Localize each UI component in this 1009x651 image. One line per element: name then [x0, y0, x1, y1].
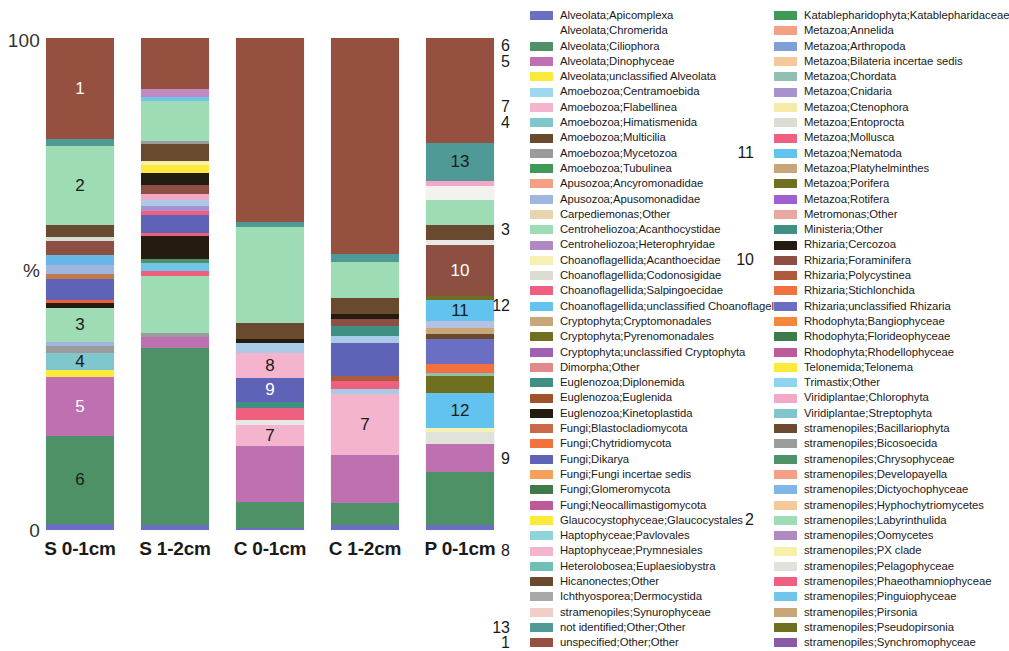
legend-item[interactable]: Metazoa;Platyhelminthes [756, 161, 995, 176]
stacked-bar-group: 123456S 0-1cmS 1-2cm897C 0-1cm7C 1-2cm13… [46, 38, 512, 530]
legend-item[interactable]: Euglenozoa;Diplonemida [512, 375, 762, 390]
legend-item-label: Metazoa;Rotifera [804, 194, 889, 205]
bar-category-label: C 1-2cm [319, 538, 411, 560]
legend-item[interactable]: Katablepharidophyta;Katablepharidaceae [756, 8, 995, 23]
legend-item[interactable]: 10Rhizaria;Foraminifera [756, 253, 995, 268]
legend-item[interactable]: 2stramenopiles;Labyrinthulida [756, 513, 995, 528]
legend-item-label: Rhizaria;Foraminifera [804, 255, 911, 266]
legend-item[interactable]: Amoebozoa;Mycetozoa [512, 146, 762, 161]
legend-item[interactable]: Metazoa;Porifera [756, 176, 995, 191]
legend-item[interactable]: stramenopiles;Bicosoecida [756, 436, 995, 451]
legend-item[interactable]: Fungi;Neocallimastigomycota [512, 498, 762, 513]
legend-item[interactable]: 12Choanoflagellida;unclassified Choanofl… [512, 299, 762, 314]
legend-item[interactable]: Cryptophyta;Cryptomonadales [512, 314, 762, 329]
legend-item[interactable]: stramenopiles;Pelagophyceae [756, 559, 995, 574]
legend-item[interactable]: Rhodophyta;Bangiophyceae [756, 314, 995, 329]
bar-segment [141, 348, 209, 525]
legend-item[interactable]: Choanoflagellida;Codonosigidae [512, 268, 762, 283]
legend-item[interactable]: Amoebozoa;Tubulinea [512, 161, 762, 176]
legend-item[interactable]: stramenopiles;Chrysophyceae [756, 452, 995, 467]
legend-item[interactable]: 1unspecified;Other;Other [512, 635, 762, 650]
legend-item[interactable]: 9Fungi;Dikarya [512, 452, 762, 467]
legend-item[interactable]: Metazoa;Chordata [756, 69, 995, 84]
legend-item[interactable]: Metazoa;Mollusca [756, 130, 995, 145]
legend-item[interactable]: Alveolata;unclassified Alveolata [512, 69, 762, 84]
legend-item[interactable]: Metazoa;Bilateria incertae sedis [756, 54, 995, 69]
legend-item[interactable]: Trimastix;Other [756, 375, 995, 390]
legend-item[interactable]: Metazoa;Ctenophora [756, 100, 995, 115]
segment-callout-label: 7 [236, 427, 304, 444]
legend-item[interactable]: Amoebozoa;Centramoebida [512, 84, 762, 99]
legend-item[interactable]: 4Amoebozoa;Himatismenida [512, 115, 762, 130]
legend-item[interactable]: stramenopiles;Synurophyceae [512, 605, 762, 620]
legend-item-label: Metazoa;Cnidaria [804, 86, 892, 97]
legend-item[interactable]: Fungi;Blastocladiomycota [512, 421, 762, 436]
legend-item[interactable]: Cryptophyta;Pyrenomonadales [512, 329, 762, 344]
legend-item[interactable]: Carpediemonas;Other [512, 207, 762, 222]
legend-item[interactable]: Choanoflagellida;Salpingoecidae [512, 283, 762, 298]
legend-item[interactable]: Apusozoa;Apusomonadidae [512, 192, 762, 207]
legend-item-label: Metazoa;Annelida [804, 25, 894, 36]
legend-item[interactable]: stramenopiles;Pinguiophyceae [756, 589, 995, 604]
legend-item[interactable]: Metazoa;Rotifera [756, 192, 995, 207]
legend-item[interactable]: Metazoa;Annelida [756, 23, 995, 38]
legend-item[interactable]: Rhizaria;Polycystinea [756, 268, 995, 283]
legend-item[interactable]: Ichthyosporea;Dermocystida [512, 589, 762, 604]
legend-item-label: Hicanonectes;Other [560, 576, 659, 587]
legend-color-swatch [774, 210, 797, 219]
legend-item[interactable]: Metazoa;Cnidaria [756, 84, 995, 99]
legend-item[interactable]: Haptophyceae;Pavlovales [512, 528, 762, 543]
legend-item-label: stramenopiles;Pirsonia [804, 607, 917, 618]
legend-item[interactable]: stramenopiles;Pirsonia [756, 605, 995, 620]
legend-item[interactable]: Fungi;Glomeromycota [512, 482, 762, 497]
legend-item[interactable]: Alveolata;Apicomplexa [512, 8, 762, 23]
legend-item[interactable]: Rhizaria;unclassified Rhizaria [756, 299, 995, 314]
legend-item[interactable]: Euglenozoa;Kinetoplastida [512, 406, 762, 421]
legend-item[interactable]: Heterolobosea;Euplaesiobystra [512, 559, 762, 574]
legend-item[interactable]: 11Metazoa;Nematoda [756, 146, 995, 161]
legend-item[interactable]: Glaucocystophyceae;Glaucocystales [512, 513, 762, 528]
legend-item[interactable]: Alveolata;Chromerida [512, 23, 762, 38]
legend-item[interactable]: 5Alveolata;Dinophyceae [512, 54, 762, 69]
legend-item[interactable]: stramenopiles;Bacillariophyta [756, 421, 995, 436]
legend-item[interactable]: stramenopiles;Hyphochytriomycetes [756, 498, 995, 513]
legend-item[interactable]: Dimorpha;Other [512, 360, 762, 375]
legend-item[interactable]: Metazoa;Entoprocta [756, 115, 995, 130]
legend-item[interactable]: Viridiplantae;Streptophyta [756, 406, 995, 421]
legend-item-label: Cryptophyta;Pyrenomonadales [560, 331, 714, 342]
legend-item[interactable]: Viridiplantae;Chlorophyta [756, 390, 995, 405]
legend-item[interactable]: Amoebozoa;Multicilia [512, 130, 762, 145]
legend-item-label: Viridiplantae;Streptophyta [804, 408, 932, 419]
legend-item[interactable]: stramenopiles;Pseudopirsonia [756, 620, 995, 635]
legend-item[interactable]: Metazoa;Arthropoda [756, 39, 995, 54]
legend-item[interactable]: stramenopiles;Phaeothamniophyceae [756, 574, 995, 589]
legend-item[interactable]: 13not identified;Other;Other [512, 620, 762, 635]
legend-item[interactable]: Ministeria;Other [756, 222, 995, 237]
legend-item[interactable]: 3Centroheliozoa;Acanthocystidae [512, 222, 762, 237]
legend-item[interactable]: Choanoflagellida;Acanthoecidae [512, 253, 762, 268]
legend-item[interactable]: Rhodophyta;Florideophyceae [756, 329, 995, 344]
legend-item[interactable]: Fungi;Fungi incertae sedis [512, 467, 762, 482]
legend-item[interactable]: stramenopiles;Developayella [756, 467, 995, 482]
legend-item[interactable]: Telonemida;Telonema [756, 360, 995, 375]
legend-item[interactable]: Centroheliozoa;Heterophryidae [512, 237, 762, 252]
legend-item[interactable]: stramenopiles;Dictyochophyceae [756, 482, 995, 497]
legend-item[interactable]: stramenopiles;PX clade [756, 543, 995, 558]
legend-item[interactable]: Fungi;Chytridiomycota [512, 436, 762, 451]
legend-item[interactable]: Cryptophyta;unclassified Cryptophyta [512, 345, 762, 360]
legend-item[interactable]: stramenopiles;Oomycetes [756, 528, 995, 543]
legend-color-swatch [774, 118, 797, 127]
legend-item[interactable]: Rhizaria;Stichlonchida [756, 283, 995, 298]
legend-color-swatch [530, 562, 553, 571]
legend-item[interactable]: stramenopiles;Synchromophyceae [756, 635, 995, 650]
legend-item[interactable]: Rhodophyta;Rhodellophyceae [756, 345, 995, 360]
legend-item[interactable]: Hicanonectes;Other [512, 574, 762, 589]
legend-item[interactable]: 7Amoebozoa;Flabellinea [512, 100, 762, 115]
legend-item[interactable]: Euglenozoa;Euglenida [512, 390, 762, 405]
legend-item[interactable]: Metromonas;Other [756, 207, 995, 222]
legend-item-label: Alveolata;Ciliophora [560, 41, 659, 52]
legend-item[interactable]: Apusozoa;Ancyromonadidae [512, 176, 762, 191]
legend-item[interactable]: 8Haptophyceae;Prymnesiales [512, 543, 762, 558]
legend-item[interactable]: Rhizaria;Cercozoa [756, 237, 995, 252]
legend-item[interactable]: 6Alveolata;Ciliophora [512, 39, 762, 54]
